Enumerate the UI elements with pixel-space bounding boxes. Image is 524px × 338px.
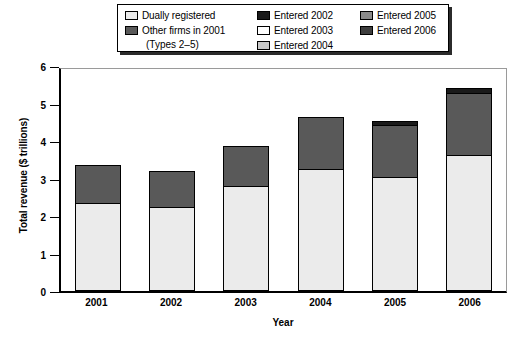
legend-label: Entered 2004 — [274, 40, 333, 51]
bar-segment[interactable] — [299, 118, 343, 170]
x-axis-tick-label: 2004 — [283, 297, 358, 308]
y-axis-tick — [50, 217, 59, 218]
x-axis-tick-label: 2003 — [208, 297, 283, 308]
y-axis-title: Total revenue ($ trillions) — [18, 91, 29, 261]
y-axis-tick-label: 0 — [34, 288, 46, 298]
bar-segment[interactable] — [373, 126, 417, 178]
bar-segment[interactable] — [150, 172, 194, 208]
legend-swatch-icon — [257, 26, 270, 35]
bar-slot — [432, 69, 506, 291]
bar-segment[interactable] — [447, 156, 491, 290]
stacked-bar[interactable] — [372, 121, 418, 291]
legend-swatch-icon — [257, 41, 270, 50]
legend-item-dually-registered: Dually registered — [125, 9, 265, 22]
legend-label: Dually registered — [142, 10, 215, 21]
y-axis-tick — [50, 292, 59, 293]
legend-item-entered-2004: Entered 2004 — [257, 39, 363, 52]
legend-item-entered-2003: Entered 2003 — [257, 24, 363, 37]
y-axis-tick — [50, 180, 59, 181]
legend-label: Entered 2006 — [377, 25, 436, 36]
y-axis-tick-label: 4 — [34, 138, 46, 148]
bar-segment[interactable] — [76, 204, 120, 290]
x-axis-title: Year — [59, 317, 507, 328]
chart-legend: Dually registered Other firms in 2001 (T… — [117, 4, 449, 52]
x-axis-tick-label: 2002 — [134, 297, 209, 308]
y-axis-tick — [50, 105, 59, 106]
stacked-bar[interactable] — [75, 165, 121, 291]
legend-label: Entered 2005 — [377, 10, 436, 21]
y-axis-tick-label: 2 — [34, 213, 46, 223]
legend-swatch-icon — [360, 26, 373, 35]
legend-subnote-types: (Types 2–5) — [125, 39, 265, 50]
legend-item-entered-2002: Entered 2002 — [257, 9, 363, 22]
bar-slot — [135, 69, 209, 291]
legend-label: Other firms in 2001 — [142, 25, 225, 36]
bar-segment[interactable] — [224, 187, 268, 290]
legend-item-entered-2005: Entered 2005 — [360, 9, 450, 22]
stacked-bar[interactable] — [223, 146, 269, 292]
bar-segment[interactable] — [373, 178, 417, 291]
bar-group — [61, 69, 506, 291]
y-axis-tick-label: 3 — [34, 176, 46, 186]
stacked-bar-chart-figure: Dually registered Other firms in 2001 (T… — [0, 0, 524, 338]
bar-slot — [61, 69, 135, 291]
plot-area — [59, 68, 507, 293]
stacked-bar[interactable] — [149, 171, 195, 291]
y-axis-tick-label: 5 — [34, 101, 46, 111]
legend-column-3: Entered 2005 Entered 2006 — [360, 9, 450, 39]
x-axis-tick-label: 2005 — [358, 297, 433, 308]
bar-slot — [284, 69, 358, 291]
x-axis-tick-label: 2001 — [59, 297, 134, 308]
legend-item-other-firms-2001: Other firms in 2001 — [125, 24, 265, 37]
bar-slot — [358, 69, 432, 291]
legend-swatch-icon — [257, 11, 270, 20]
bar-segment[interactable] — [76, 166, 120, 203]
y-axis-tick-label: 1 — [34, 251, 46, 261]
legend-swatch-icon — [360, 11, 373, 20]
legend-column-2: Entered 2002 Entered 2003 Entered 2004 — [257, 9, 363, 54]
legend-label: Entered 2003 — [274, 25, 333, 36]
bar-segment[interactable] — [299, 170, 343, 290]
x-axis-tick-label: 2006 — [432, 297, 507, 308]
y-axis-tick — [50, 255, 59, 256]
legend-column-1: Dually registered Other firms in 2001 (T… — [125, 9, 265, 50]
legend-swatch-icon — [125, 11, 138, 20]
y-axis-tick — [50, 142, 59, 143]
bar-segment[interactable] — [150, 208, 194, 291]
bar-segment[interactable] — [224, 147, 268, 187]
legend-swatch-icon — [125, 26, 138, 35]
bar-segment[interactable] — [447, 94, 491, 156]
bar-slot — [209, 69, 283, 291]
y-axis-tick — [50, 67, 59, 68]
legend-label: Entered 2002 — [274, 10, 333, 21]
stacked-bar[interactable] — [446, 88, 492, 291]
stacked-bar[interactable] — [298, 117, 344, 291]
y-axis-tick-label: 6 — [34, 63, 46, 73]
legend-item-entered-2006: Entered 2006 — [360, 24, 450, 37]
x-axis-labels: 200120022003200420052006 — [59, 297, 507, 308]
